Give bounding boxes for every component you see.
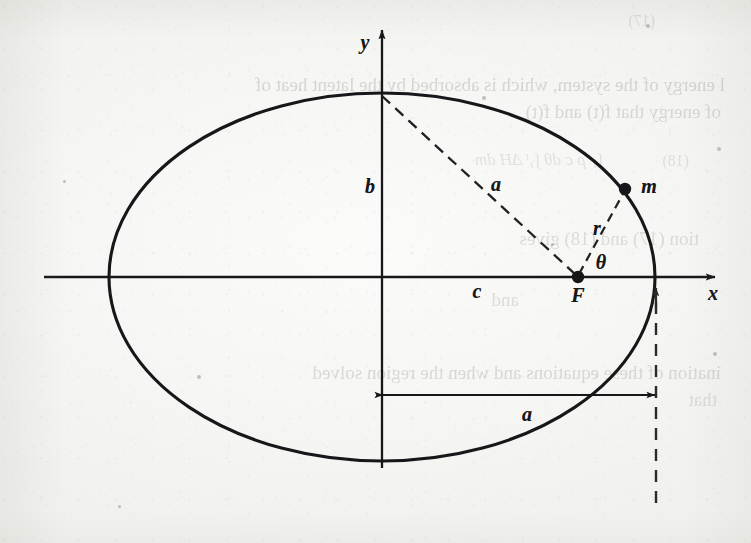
paper-speck <box>197 375 201 379</box>
mass-point-label: m <box>641 175 657 198</box>
angle-theta-label: θ <box>596 251 606 274</box>
radius-label: r <box>593 217 601 240</box>
focal-distance-label: c <box>473 280 482 303</box>
focus-point-label: F <box>571 284 584 307</box>
semi-minor-axis-label: b <box>365 175 375 198</box>
mass-point-marker <box>619 183 631 195</box>
dashed-segment-a <box>382 96 576 275</box>
figure-page: (17)l energy of the system, which is abs… <box>0 0 751 543</box>
semi-major-dimension-label: a <box>522 403 532 426</box>
paper-speck <box>482 96 486 100</box>
diagram-drawing <box>0 0 751 543</box>
paper-speck <box>717 147 721 151</box>
x-axis-label: x <box>708 282 718 305</box>
paper-speck <box>713 352 717 356</box>
paper-speck <box>646 24 650 28</box>
y-axis-label: y <box>361 31 370 54</box>
focus-point-marker <box>572 271 584 283</box>
semi-major-dashed-label: a <box>491 173 501 196</box>
